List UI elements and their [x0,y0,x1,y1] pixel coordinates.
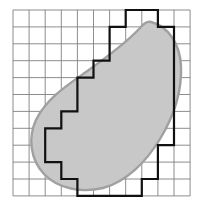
grid-approximation-figure [0,0,204,209]
figure-canvas [0,0,204,209]
